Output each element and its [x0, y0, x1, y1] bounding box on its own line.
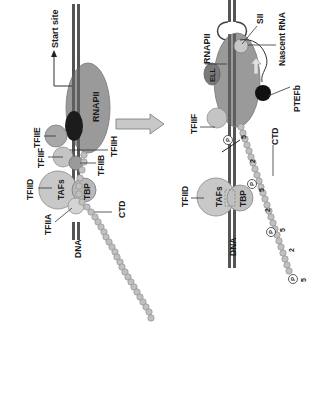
- label-ell: ELL: [208, 67, 217, 82]
- label-tfiie: TFIIE: [32, 127, 42, 148]
- tfiih-ellipse: [65, 111, 83, 141]
- phospho-label-3: P: [268, 230, 274, 234]
- ctd-mark-7: 5: [300, 278, 307, 282]
- right-panel-elongation: P P P P 5 2 5 2 5 2 5 SII Nascent RNA EL…: [180, 0, 307, 284]
- left-panel-preinitiation: Start site RNAPII TFIIE TFIIF TFIID TAFs…: [25, 4, 154, 321]
- label-tfiia: TFIIA: [43, 214, 53, 235]
- ctd-bead-chain-left: [76, 152, 154, 321]
- ctd-mark-5: 5: [279, 228, 286, 232]
- phospho-label-1: P: [225, 138, 231, 142]
- label-rnapii-left: RNAPII: [91, 91, 101, 122]
- label-sii: SII: [255, 14, 265, 24]
- label-tafs-right: TAFs: [214, 186, 224, 207]
- label-tfiih: TFIIH: [109, 136, 119, 157]
- tfiif-circle-right: [207, 108, 227, 128]
- label-dna-right: DNA: [228, 238, 238, 256]
- right-arrow-icon: [116, 114, 164, 134]
- ctd-mark-6: 2: [288, 248, 295, 252]
- ctd-mark-4: 2: [264, 208, 271, 212]
- label-ctd-right: CTD: [270, 128, 280, 145]
- ctd-mark-2: 2: [249, 159, 256, 163]
- label-tfiib: TFIIB: [96, 155, 106, 176]
- label-nascent-rna: Nascent RNA: [277, 12, 287, 66]
- label-tbp-left: TBP: [82, 183, 92, 200]
- start-site-arrow: [54, 54, 72, 86]
- label-tfiid-right: TFIID: [180, 186, 190, 207]
- label-tfiid-left: TFIID: [25, 179, 35, 200]
- label-start-site: Start site: [50, 9, 60, 48]
- transition-arrow: [116, 114, 164, 134]
- label-rnapii-right: RNAPII: [202, 33, 212, 64]
- sii-circle: [234, 39, 248, 53]
- label-tfiif-right: TFIIF: [189, 114, 199, 134]
- phospho-label-2: P: [249, 182, 255, 186]
- label-ptefb: PTEFb: [292, 85, 302, 112]
- label-tfiif-left: TFIIF: [36, 148, 46, 168]
- label-dna-left: DNA: [73, 240, 83, 258]
- label-ctd-left: CTD: [117, 201, 127, 218]
- ptefb-circle: [255, 85, 271, 101]
- ctd-mark-3: 5: [258, 188, 265, 192]
- label-tbp-right: TBP: [238, 190, 248, 207]
- phospho-label-4: P: [290, 277, 296, 281]
- ctd-mark-1: 5: [240, 135, 247, 139]
- label-tafs-left: TAFs: [56, 179, 66, 200]
- transcription-diagram: Start site RNAPII TFIIE TFIIF TFIID TAFs…: [0, 0, 330, 408]
